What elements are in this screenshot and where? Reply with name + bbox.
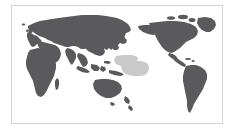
region-iceland (22, 23, 26, 25)
region-cuba (185, 58, 191, 60)
region-victoria-island (167, 16, 175, 20)
region-hispaniola (191, 60, 194, 62)
region-ireland (26, 29, 28, 32)
region-baffin-island (189, 18, 196, 22)
region-hokkaido (112, 38, 116, 41)
region-great-britain (28, 28, 32, 34)
world-map-figure (0, 0, 234, 135)
region-arctic-islands (178, 15, 188, 19)
map-frame (11, 5, 223, 124)
world-map-svg (12, 6, 222, 123)
